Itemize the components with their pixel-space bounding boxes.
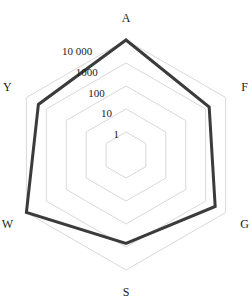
tick-label-10000: 10 000 xyxy=(62,45,92,56)
grid-ring-10000 xyxy=(26,40,225,270)
grid-ring-10 xyxy=(86,109,166,201)
tick-label-1: 1 xyxy=(113,129,119,140)
axis-label-f: F xyxy=(241,81,248,93)
radar-series xyxy=(26,40,215,243)
axis-label-a: A xyxy=(122,12,131,24)
radar-chart-canvas xyxy=(0,0,252,304)
radar-chart: AFGSWY 10 0001000100101 xyxy=(0,0,252,304)
axis-label-g: G xyxy=(240,218,249,230)
axis-label-w: W xyxy=(2,218,13,230)
grid-ring-1 xyxy=(106,132,146,178)
axis-label-s: S xyxy=(123,286,130,298)
axis-label-y: Y xyxy=(3,81,12,93)
tick-label-1000: 1000 xyxy=(76,66,98,77)
radar-grid xyxy=(26,40,225,270)
grid-ring-100 xyxy=(66,86,186,224)
tick-label-10: 10 xyxy=(101,108,112,119)
tick-label-100: 100 xyxy=(88,87,105,98)
series-polygon-1 xyxy=(26,40,215,243)
